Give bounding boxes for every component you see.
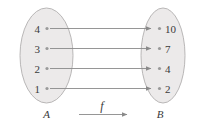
set-b-element-label-2: 7 [165,43,171,55]
set-a-element-label-1: 4 [35,23,41,35]
set-a-dot-3 [45,67,48,70]
set-a-dot-4 [45,87,48,90]
set-b-dot-1 [158,27,161,30]
set-b-dot-3 [158,67,161,70]
set-b-dot-4 [158,87,161,90]
set-b-dot-2 [158,47,161,50]
set-b-element-label-1: 10 [165,23,177,35]
set-b-element-label-3: 4 [165,63,171,75]
set-a-label: A [42,108,50,120]
set-a-dot-2 [45,47,48,50]
diagram-canvas: 4 3 2 1 10 7 4 2 f A B [0,0,197,126]
set-a-element-label-3: 2 [35,63,41,75]
set-b-label: B [157,108,164,120]
set-a-element-label-4: 1 [35,83,41,95]
set-b-element-label-4: 2 [165,83,171,95]
function-mapping-diagram: 4 3 2 1 10 7 4 2 f A B [0,0,197,126]
function-label: f [100,99,105,113]
set-a-dot-1 [45,27,48,30]
set-a-element-label-2: 3 [35,43,41,55]
